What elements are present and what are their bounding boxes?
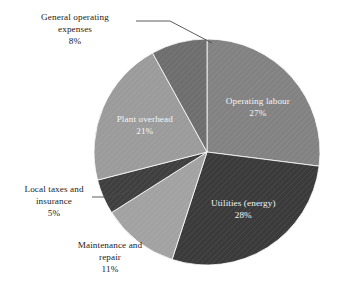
pie-label-line2: repair xyxy=(99,252,121,262)
pie-inside-label-percent: 27% xyxy=(249,108,266,118)
pie-label-line1: General operating xyxy=(41,12,109,22)
pie-hatch-overlay xyxy=(94,39,320,265)
pie-label-local-taxes-and-insurance: Local taxes and insurance 5% xyxy=(2,184,106,219)
pie-label-percent: 8% xyxy=(16,36,134,48)
pie-chart-figure: Operating labour27%Utilities (energy)28%… xyxy=(0,0,338,296)
pie-inside-label-name: Operating labour xyxy=(226,96,290,106)
pie-label-line1: Local taxes and xyxy=(24,184,83,194)
pie-label-line2: expenses xyxy=(58,24,92,34)
pie-label-general-operating-expenses: General operating expenses 8% xyxy=(16,12,134,47)
pie-inside-label-name: Plant overhead xyxy=(117,114,174,124)
pie-inside-label-percent: 21% xyxy=(136,126,153,136)
pie-inside-label-percent: 28% xyxy=(235,210,252,220)
pie-label-maintenance-and-repair: Maintenance and repair 11% xyxy=(52,240,168,275)
pie-label-line2: insurance xyxy=(36,196,72,206)
pie-label-percent: 11% xyxy=(52,264,168,276)
pie-inside-label-name: Utilities (energy) xyxy=(211,198,276,208)
pie-label-line1: Maintenance and xyxy=(78,240,143,250)
pie-label-percent: 5% xyxy=(2,208,106,220)
